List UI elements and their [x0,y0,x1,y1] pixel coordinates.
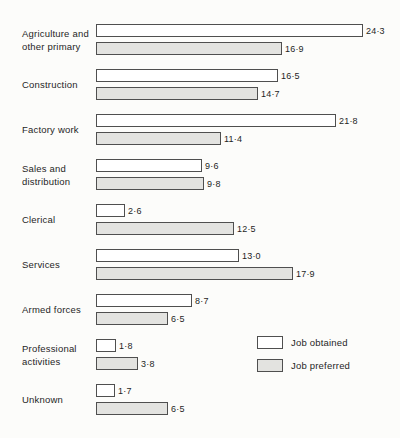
bar-job-preferred [96,222,234,235]
bar-job-preferred [96,267,293,280]
bar-job-obtained [96,294,192,307]
category-group: Agriculture andother primary24·316·9 [0,24,400,55]
category-label: Construction [22,78,96,91]
bar-value-label: 24·3 [366,26,385,36]
bar-job-preferred [96,42,282,55]
bar-job-preferred [96,132,221,145]
bar-value-label: 6·5 [171,314,185,324]
bar-row: 6·5 [96,402,185,415]
category-label: Clerical [22,213,96,226]
bar-row: 14·7 [96,87,300,100]
category-group: Services13·017·9 [0,249,400,280]
bar-value-label: 1·7 [118,386,132,396]
bar-value-label: 12·5 [237,224,256,234]
bar-row: 1·7 [96,384,185,397]
legend-label-job-preferred: Job preferred [291,360,350,371]
bar-row: 8·7 [96,294,209,307]
category-label: Factory work [22,123,96,136]
bar-value-label: 17·9 [296,269,315,279]
bar-value-label: 8·7 [195,296,209,306]
bar-value-label: 1·8 [119,341,133,351]
bar-pair: 8·76·5 [96,294,209,325]
bar-row: 13·0 [96,249,315,262]
bar-row: 17·9 [96,267,315,280]
bar-job-obtained [96,159,202,172]
bar-job-preferred [96,402,168,415]
category-group: Armed forces8·76·5 [0,294,400,325]
bar-job-obtained [96,114,336,127]
bar-row: 9·8 [96,177,221,190]
bar-row: 21·8 [96,114,358,127]
bar-pair: 21·811·4 [96,114,358,145]
bar-row: 11·4 [96,132,358,145]
bar-value-label: 16·9 [285,44,304,54]
bar-value-label: 11·4 [224,134,242,144]
category-label: Professionalactivities [22,342,96,368]
bar-pair: 2·612·5 [96,204,256,235]
category-group: Construction16·514·7 [0,69,400,100]
legend-label-job-obtained: Job obtained [291,337,348,348]
category-label: Unknown [22,393,96,406]
bar-value-label: 6·5 [171,404,185,414]
bar-row: 12·5 [96,222,256,235]
bar-pair: 24·316·9 [96,24,385,55]
bar-row: 24·3 [96,24,385,37]
bar-job-obtained [96,339,116,352]
bar-pair: 1·76·5 [96,384,185,415]
bar-value-label: 9·8 [207,179,221,189]
bar-pair: 9·69·8 [96,159,221,190]
category-label: Armed forces [22,303,96,316]
category-label: Sales anddistribution [22,162,96,188]
bar-chart: Agriculture andother primary24·316·9Cons… [0,0,400,438]
legend-swatch-job-obtained [257,336,283,349]
bar-job-obtained [96,24,363,37]
legend-swatch-job-preferred [257,359,283,372]
bar-value-label: 2·6 [128,206,142,216]
bar-pair: 1·83·8 [96,339,155,370]
bar-value-label: 14·7 [261,89,280,99]
category-group: Factory work21·811·4 [0,114,400,145]
bar-row: 9·6 [96,159,221,172]
bar-row: 16·9 [96,42,385,55]
category-group: Sales anddistribution9·69·8 [0,159,400,190]
bar-job-obtained [96,204,125,217]
bar-row: 3·8 [96,357,155,370]
bar-row: 1·8 [96,339,155,352]
bar-job-preferred [96,87,258,100]
category-label: Agriculture andother primary [22,27,96,53]
bar-job-preferred [96,312,168,325]
bar-value-label: 9·6 [205,161,219,171]
category-label: Services [22,258,96,271]
bar-job-obtained [96,384,115,397]
bar-value-label: 13·0 [242,251,261,261]
legend-item-job-obtained: Job obtained [257,336,350,349]
bar-value-label: 16·5 [281,71,300,81]
bar-job-obtained [96,69,278,82]
category-group: Clerical2·612·5 [0,204,400,235]
bar-job-preferred [96,177,204,190]
chart-legend: Job obtained Job preferred [257,336,350,382]
bar-pair: 16·514·7 [96,69,300,100]
bar-row: 2·6 [96,204,256,217]
bar-job-obtained [96,249,239,262]
bar-row: 16·5 [96,69,300,82]
bar-value-label: 3·8 [141,359,155,369]
bar-pair: 13·017·9 [96,249,315,280]
bar-value-label: 21·8 [339,116,358,126]
legend-item-job-preferred: Job preferred [257,359,350,372]
category-group: Unknown1·76·5 [0,384,400,415]
bar-row: 6·5 [96,312,209,325]
bar-job-preferred [96,357,138,370]
